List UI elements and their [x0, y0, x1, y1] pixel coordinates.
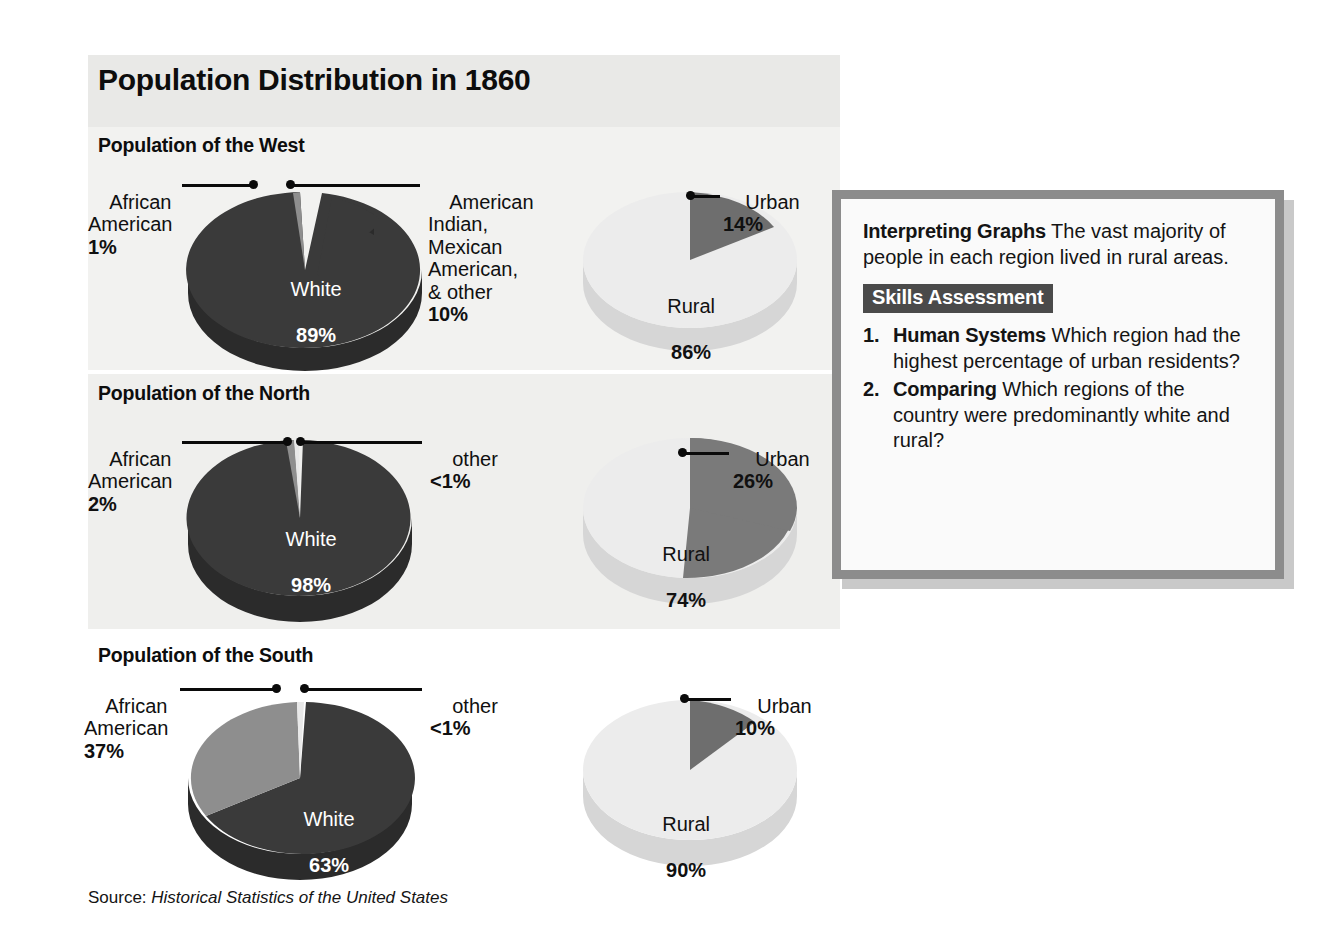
interpreting-graphs-paragraph: Interpreting Graphs The vast majority of…	[863, 219, 1253, 270]
leader-south-urban	[686, 698, 731, 701]
leader-south-other	[305, 688, 422, 691]
leader-dot-west-urban	[686, 191, 695, 200]
leader-west-aa	[182, 184, 252, 187]
source-line: Source: Historical Statistics of the Uni…	[88, 888, 448, 908]
leader-dot-north-urban	[678, 448, 687, 457]
leader-dot-south-aa	[272, 684, 281, 693]
leader-dot-west-aa	[249, 180, 258, 189]
skills-assessment-box-inner: Interpreting Graphs The vast majority of…	[841, 199, 1275, 570]
leader-dot-south-other	[300, 684, 309, 693]
label-west-urban: Urban14%	[723, 168, 843, 258]
skills-question-list: 1.Human Systems Which region had the hig…	[863, 323, 1253, 454]
leader-west-urban	[692, 195, 720, 198]
skills-question-1: 1.Human Systems Which region had the hig…	[863, 323, 1253, 374]
pie-south-race-center: White 63%	[258, 785, 378, 900]
page-title: Population Distribution in 1860	[98, 63, 530, 97]
region-heading-west: Population of the West	[98, 134, 304, 157]
skills-assessment-box: Interpreting Graphs The vast majority of…	[832, 190, 1284, 579]
label-south-other: other<1%	[430, 672, 560, 762]
label-north-other: other<1%	[430, 425, 560, 515]
leader-north-aa	[182, 441, 287, 444]
pie-north-race-center: White 98%	[240, 505, 360, 620]
question-1-number: 1.	[863, 323, 880, 349]
interpreting-graphs-lead: Interpreting Graphs	[863, 220, 1046, 242]
pie-west-race-center: White 89%	[245, 255, 365, 370]
region-heading-south: Population of the South	[98, 644, 313, 667]
pie-west-rural-text: Rural 86%	[625, 272, 735, 387]
leader-north-other	[300, 441, 422, 444]
leader-dot-north-aa	[283, 437, 292, 446]
leader-north-urban	[684, 452, 729, 455]
question-2-number: 2.	[863, 377, 880, 403]
region-heading-north: Population of the North	[98, 382, 310, 405]
label-south-urban: Urban10%	[735, 672, 855, 762]
question-1-term: Human Systems	[893, 324, 1046, 346]
skills-assessment-header: Skills Assessment	[863, 284, 1053, 313]
pie-north-rural-text: Rural 74%	[620, 520, 730, 635]
leader-dot-north-other	[296, 437, 305, 446]
leader-dot-west-other	[286, 180, 295, 189]
leader-west-other	[290, 184, 420, 187]
pie-south-rural-text: Rural 90%	[620, 790, 730, 905]
leader-dot-south-urban	[680, 694, 689, 703]
question-2-term: Comparing	[893, 378, 997, 400]
leader-south-aa	[180, 688, 275, 691]
skills-question-2: 2.Comparing Which regions of the country…	[863, 377, 1253, 454]
